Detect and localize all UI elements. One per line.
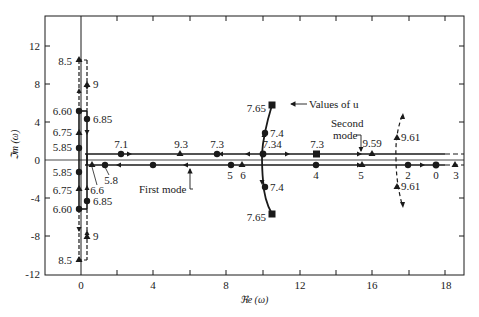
x-tick-labels: 0 4 8 12 16 18 — [78, 279, 452, 291]
u-label: 9 — [93, 230, 99, 242]
u-label: 0 — [433, 169, 439, 181]
u-label: 9.61 — [401, 180, 420, 192]
u-label: 7.1 — [114, 138, 128, 150]
u-label: 5.8 — [104, 174, 118, 186]
u-label: 6.85 — [93, 195, 113, 207]
u-label: 7.65 — [247, 211, 267, 223]
x-tick-label: 4 — [150, 279, 156, 291]
u-label: 4 — [313, 169, 319, 181]
u-label: 6.60 — [53, 105, 73, 117]
u-label: 9.59 — [362, 137, 382, 149]
u-label: 5.85 — [53, 141, 73, 153]
values-of-u-annotation: Values of u — [309, 98, 359, 110]
u-label: 5.85 — [53, 166, 73, 178]
y-axis-label: ℑm (ω) — [9, 129, 21, 160]
x-tick-label: 8 — [223, 279, 229, 291]
u-label: 9.61 — [401, 131, 420, 143]
u-label: 6.6 — [90, 184, 104, 196]
plot-frame — [45, 16, 464, 275]
u-label: 6.75 — [53, 184, 73, 196]
second-mode-annotation-2: mode — [333, 129, 358, 141]
u-label: 7.4 — [270, 181, 284, 193]
first-mode-annotation: First mode — [139, 183, 186, 195]
y-tick-label: 0 — [35, 154, 41, 166]
x-tick-label: 12 — [295, 279, 306, 291]
u-label: 9 — [93, 78, 99, 90]
bottom-ticks — [117, 270, 445, 275]
u-label: 2 — [405, 169, 411, 181]
x-tick-label: 0 — [78, 279, 84, 291]
u-label: 8.5 — [58, 55, 72, 67]
y-tick-label: 4 — [35, 116, 41, 128]
x-tick-label: 16 — [367, 279, 379, 291]
u-label: 7.65 — [247, 102, 267, 114]
u-label: 6.60 — [53, 203, 73, 215]
top-ticks — [117, 16, 445, 21]
u-label: 8.5 — [58, 254, 72, 266]
second-mode-annotation: Second — [331, 117, 364, 129]
u-label: 9.3 — [174, 138, 188, 150]
y-tick-label: 12 — [29, 40, 40, 52]
u-label: 7.3 — [210, 138, 224, 150]
y-tick-label: -12 — [25, 268, 40, 280]
x-tick-label: 18 — [441, 279, 453, 291]
right-ticks — [459, 46, 464, 236]
left-ticks — [45, 46, 50, 236]
u-label: 7.34 — [262, 138, 282, 150]
u-label: 3 — [453, 169, 459, 181]
u-label: 6 — [240, 169, 246, 181]
x-axis-label: ℜe (ω) — [240, 294, 269, 306]
root-locus-chart: 12 8 4 0 -4 -8 -12 0 4 8 12 16 18 ℜe (ω)… — [0, 0, 479, 317]
u-label: 5 — [227, 169, 233, 181]
u-label: 7.3 — [310, 138, 324, 150]
u-label: 6.75 — [53, 126, 73, 138]
u-label: 6.85 — [93, 113, 113, 125]
y-tick-label: -8 — [31, 230, 41, 242]
y-tick-labels: 12 8 4 0 -4 -8 -12 — [25, 40, 40, 280]
y-tick-label: 8 — [35, 78, 41, 90]
u-label: 5 — [358, 169, 364, 181]
y-tick-label: -4 — [31, 192, 41, 204]
markers — [76, 56, 459, 262]
